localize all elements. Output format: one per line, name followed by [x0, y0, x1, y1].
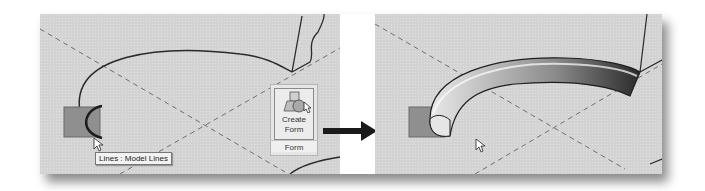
create-form-button[interactable]: Create Form — [274, 88, 314, 140]
reference-lines — [292, 14, 324, 72]
ribbon-panel-title: Form — [271, 140, 317, 152]
mouse-cursor-icon — [94, 138, 103, 151]
mouse-cursor-icon — [303, 101, 313, 113]
reference-line — [290, 157, 340, 174]
model-canvas — [375, 14, 662, 174]
separator — [340, 14, 375, 174]
swept-form[interactable] — [430, 58, 640, 137]
screenshot-frame: Lines : Model Lines Create Form Form — [40, 14, 662, 174]
ribbon-panel-form: Create Form Form — [270, 84, 318, 156]
create-form-label: Create Form — [275, 115, 313, 135]
mouse-cursor-icon — [476, 139, 485, 152]
arrow-right-icon — [323, 119, 378, 143]
reference-lines — [640, 14, 662, 72]
reference-line — [650, 159, 662, 164]
tooltip: Lines : Model Lines — [95, 152, 172, 165]
reference-plane-line — [375, 24, 625, 169]
viewport-after[interactable] — [375, 14, 662, 174]
profile-square — [64, 107, 100, 137]
viewport-before[interactable]: Lines : Model Lines Create Form Form — [40, 14, 340, 174]
path-curve[interactable] — [79, 51, 292, 112]
